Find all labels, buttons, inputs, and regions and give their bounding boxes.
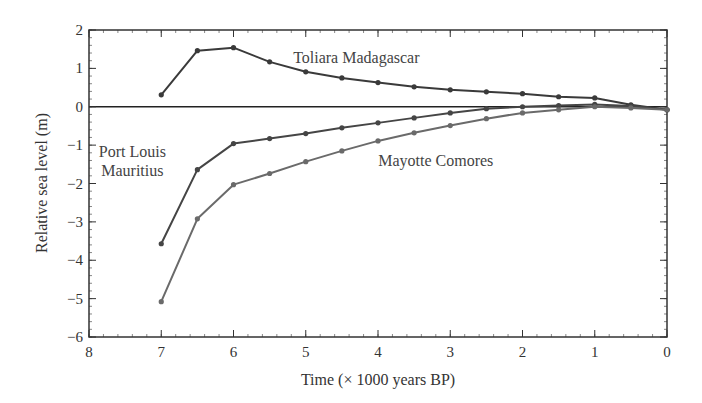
data-point (303, 69, 308, 74)
data-point (484, 116, 489, 121)
data-point (303, 131, 308, 136)
data-point (484, 106, 489, 111)
series-port-louis-mauritius (159, 102, 670, 247)
data-point (412, 130, 417, 135)
y-tick-label: 2 (76, 22, 84, 38)
y-tick-label: 0 (76, 99, 84, 115)
y-tick-label: −1 (67, 137, 83, 153)
data-point (628, 105, 633, 110)
data-point (448, 110, 453, 115)
y-axis-title: Relative sea level (m) (33, 113, 51, 253)
y-tick-label: 1 (76, 60, 84, 76)
data-point (267, 171, 272, 176)
data-point (375, 138, 380, 143)
data-point (195, 48, 200, 53)
data-point (267, 136, 272, 141)
data-point (159, 92, 164, 97)
data-point (195, 216, 200, 221)
y-tick-label: −6 (67, 329, 83, 345)
x-tick-label: 1 (591, 344, 599, 360)
data-point (159, 241, 164, 246)
data-point (231, 141, 236, 146)
series-label: Port LouisMauritius (99, 143, 166, 179)
x-tick-label: 6 (230, 344, 238, 360)
data-point (412, 84, 417, 89)
data-point (556, 94, 561, 99)
data-point (448, 87, 453, 92)
x-tick-label: 3 (447, 344, 455, 360)
data-point (267, 59, 272, 64)
data-point (303, 159, 308, 164)
data-point (412, 115, 417, 120)
data-point (339, 75, 344, 80)
x-tick-label: 5 (302, 344, 310, 360)
y-tick-label: −2 (67, 176, 83, 192)
data-point (195, 167, 200, 172)
sea-level-chart: 210−1−2−3−4−5−6 876543210 Toliara Madaga… (0, 0, 702, 403)
data-point (592, 104, 597, 109)
y-tick-label: −3 (67, 214, 83, 230)
x-tick-label: 7 (158, 344, 166, 360)
series-label: Toliara Madagascar (293, 49, 420, 67)
data-point (520, 104, 525, 109)
y-tick-label: −4 (67, 252, 83, 268)
y-axis-ticks: 210−1−2−3−4−5−6 (67, 22, 667, 345)
data-point (159, 299, 164, 304)
x-tick-label: 8 (85, 344, 93, 360)
x-tick-label: 0 (663, 344, 671, 360)
data-point (339, 125, 344, 130)
data-point (375, 120, 380, 125)
y-tick-label: −5 (67, 291, 83, 307)
data-point (448, 123, 453, 128)
data-point (556, 107, 561, 112)
series-lines (159, 45, 670, 304)
series-label: Mayotte Comores (378, 152, 493, 170)
data-point (375, 80, 380, 85)
x-tick-label: 2 (519, 344, 527, 360)
series-mayotte-comores (159, 104, 670, 304)
x-axis-title: Time (× 1000 years BP) (301, 371, 455, 389)
data-point (231, 182, 236, 187)
x-tick-label: 4 (374, 344, 382, 360)
data-point (339, 148, 344, 153)
data-point (664, 107, 669, 112)
data-point (592, 95, 597, 100)
data-point (231, 45, 236, 50)
data-point (520, 91, 525, 96)
data-point (484, 89, 489, 94)
data-point (520, 110, 525, 115)
